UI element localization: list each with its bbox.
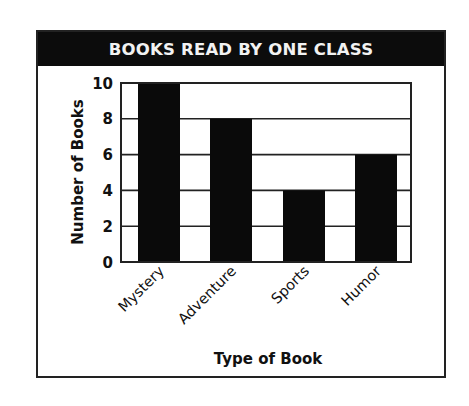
y-axis-ticks: 0246810 [92,75,113,272]
x-category-label: Sports [268,263,312,307]
y-tick-label: 0 [103,254,113,272]
bars [138,83,397,262]
y-axis-label: Number of Books [69,99,87,244]
bar-mystery [138,83,180,262]
x-category-label: Adventure [175,263,239,327]
y-tick-label: 8 [103,110,113,128]
bar-chart: 0246810 MysteryAdventureSportsHumor Numb… [0,0,469,406]
x-category-label: Mystery [115,263,167,315]
x-category-label: Humor [338,263,384,309]
y-tick-label: 6 [103,146,113,164]
y-tick-label: 2 [103,218,113,236]
x-axis-label: Type of Book [214,350,323,368]
bar-adventure [210,119,252,262]
y-tick-label: 10 [92,75,113,93]
bar-humor [355,155,397,262]
x-axis-categories: MysteryAdventureSportsHumor [115,263,384,328]
y-tick-label: 4 [103,182,113,200]
bar-sports [283,190,325,262]
